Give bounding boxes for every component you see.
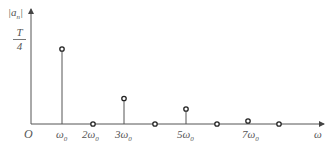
stem-plot xyxy=(0,0,334,154)
stem-marker xyxy=(184,107,188,111)
stem-marker xyxy=(91,122,95,126)
y-tick-t-over-4: T 4 xyxy=(13,27,26,52)
stem-marker xyxy=(277,122,281,126)
stem-marker xyxy=(215,122,219,126)
x-tick-w0: ω0 xyxy=(56,128,67,143)
frac-denominator: 4 xyxy=(13,40,26,52)
stem-series xyxy=(60,47,281,126)
frac-numerator: T xyxy=(13,27,26,40)
x-tick-3w0: 3ω0 xyxy=(115,128,132,143)
stem-marker xyxy=(122,96,126,100)
x-tick-7w0: 7ω0 xyxy=(242,128,259,143)
stem-marker xyxy=(153,122,157,126)
stem-marker xyxy=(246,119,250,123)
x-tick-5w0: 5ω0 xyxy=(177,128,194,143)
x-axis-label: ω xyxy=(314,128,322,140)
y-axis-label: |an| xyxy=(8,6,23,21)
stem-marker xyxy=(60,47,64,51)
origin-label: O xyxy=(24,127,33,142)
x-tick-2w0: 2ω0 xyxy=(82,128,99,143)
